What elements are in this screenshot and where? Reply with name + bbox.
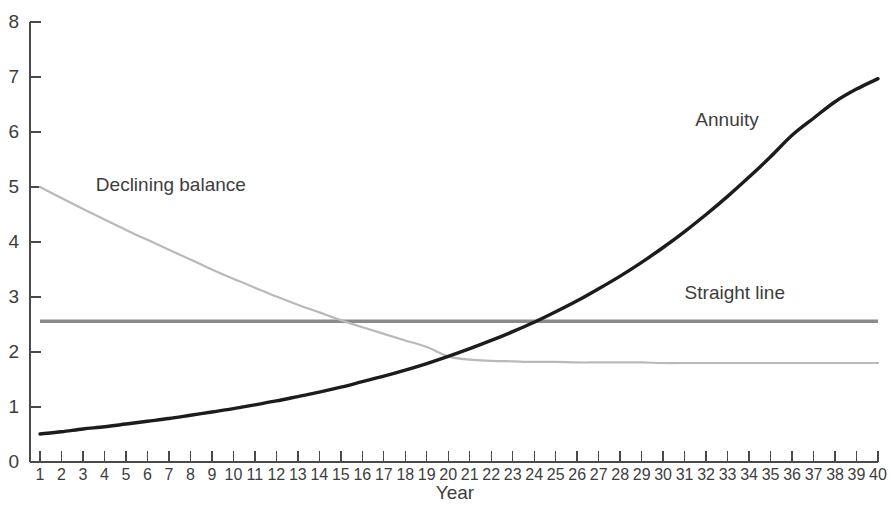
x-tick-label: 4	[100, 466, 109, 483]
x-tick-label: 18	[396, 466, 414, 483]
x-tick-label: 26	[568, 466, 586, 483]
x-tick-label: 29	[633, 466, 651, 483]
y-tick-label: 5	[8, 176, 19, 197]
series-label-declining-balance: Declining balance	[96, 174, 246, 195]
y-tick-label: 0	[8, 451, 19, 472]
x-tick-label: 30	[654, 466, 672, 483]
x-tick-label: 14	[310, 466, 328, 483]
x-tick-label: 16	[353, 466, 371, 483]
x-tick-label: 40	[869, 466, 887, 483]
y-tick-label: 8	[8, 11, 19, 32]
y-tick-label: 4	[8, 231, 19, 252]
x-tick-label: 5	[121, 466, 130, 483]
x-tick-label: 10	[224, 466, 242, 483]
chart-container: 012345678 123456789101112131415161718192…	[0, 0, 890, 514]
y-tick-label: 6	[8, 121, 19, 142]
series-label-annuity: Annuity	[695, 109, 759, 130]
y-tick-label: 7	[8, 66, 19, 87]
x-axis-title: Year	[436, 482, 475, 503]
x-tick-label: 39	[848, 466, 866, 483]
line-chart: 012345678 123456789101112131415161718192…	[0, 0, 890, 514]
x-tick-label: 3	[79, 466, 88, 483]
x-tick-label: 38	[826, 466, 844, 483]
series-annotations: AnnuityDeclining balanceStraight line	[96, 109, 785, 303]
x-tick-label: 32	[697, 466, 715, 483]
series-line-annuity	[40, 79, 878, 434]
x-tick-label: 7	[164, 466, 173, 483]
x-tick-label: 8	[186, 466, 195, 483]
x-tick-label: 33	[719, 466, 737, 483]
x-tick-label: 13	[289, 466, 307, 483]
y-tick-label: 1	[8, 396, 19, 417]
x-tick-label: 25	[547, 466, 565, 483]
x-tick-label: 24	[525, 466, 543, 483]
y-tick-label: 3	[8, 286, 19, 307]
series-layer	[40, 79, 878, 434]
x-tick-label: 27	[590, 466, 608, 483]
x-tick-label: 9	[207, 466, 216, 483]
x-tick-label: 15	[332, 466, 350, 483]
x-tick-label: 19	[418, 466, 436, 483]
x-tick-label: 35	[762, 466, 780, 483]
x-tick-label: 28	[611, 466, 629, 483]
x-tick-label: 17	[375, 466, 393, 483]
x-tick-label: 11	[247, 466, 264, 483]
y-tick-label: 2	[8, 341, 19, 362]
x-tick-label: 31	[676, 466, 694, 483]
x-tick-label: 2	[57, 466, 66, 483]
x-tick-label: 34	[740, 466, 758, 483]
y-axis: 012345678	[8, 11, 41, 472]
x-tick-label: 1	[36, 466, 45, 483]
x-tick-label: 23	[504, 466, 522, 483]
series-label-straight-line: Straight line	[685, 282, 785, 303]
x-axis: 1234567891011121314151617181920212223242…	[30, 451, 887, 483]
series-line-declining-balance	[40, 187, 878, 363]
x-tick-label: 36	[783, 466, 801, 483]
x-tick-label: 6	[143, 466, 152, 483]
x-tick-label: 12	[267, 466, 285, 483]
x-tick-label: 22	[482, 466, 500, 483]
x-tick-label: 37	[805, 466, 823, 483]
